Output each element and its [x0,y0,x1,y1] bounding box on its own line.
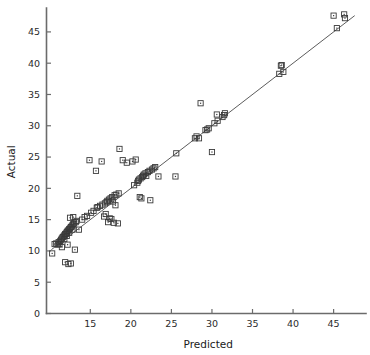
x-tick-label: 45 [328,318,340,329]
marker-center-dot [118,193,119,194]
data-point-marker [148,198,153,203]
marker-center-dot [279,73,280,74]
marker-center-dot [101,161,102,162]
y-tick-label: 30 [28,120,40,131]
x-axis-title: Predicted [184,338,233,350]
marker-center-dot [333,15,334,16]
data-point-marker [173,174,178,179]
marker-center-dot [89,160,90,161]
y-tick-label: 20 [28,183,40,194]
marker-center-dot [117,223,118,224]
marker-center-dot [198,138,199,139]
marker-center-dot [141,198,142,199]
marker-center-dot [52,253,53,254]
marker-center-dot [153,168,154,169]
data-point-marker [93,168,98,173]
y-tick-label: 35 [28,89,40,100]
data-point-marker [65,242,70,247]
plot-canvas: 05101520253035404515202530354045 Predict… [0,0,370,355]
marker-center-dot [158,176,159,177]
x-tick-label: 15 [84,318,96,329]
data-point-marker [214,112,219,117]
marker-center-dot [216,114,217,115]
x-tick-label: 40 [287,318,299,329]
data-point-marker [72,247,77,252]
marker-center-dot [105,213,106,214]
data-point-marker [156,174,161,179]
marker-center-dot [150,200,151,201]
marker-center-dot [283,71,284,72]
marker-center-dot [224,113,225,114]
marker-center-dot [72,229,73,230]
data-point-marker [117,146,122,151]
data-points-layer [50,12,348,267]
marker-center-dot [75,222,76,223]
data-point-marker [75,193,80,198]
y-tick-label: 5 [34,277,40,288]
marker-center-dot [147,171,148,172]
data-point-marker [106,220,111,225]
data-point-marker [63,260,68,265]
marker-center-dot [135,159,136,160]
y-tick-label: 40 [28,58,40,69]
marker-center-dot [74,249,75,250]
marker-center-dot [67,244,68,245]
marker-center-dot [200,103,201,104]
axes-layer: 05101520253035404515202530354045 [28,8,366,329]
y-tick-label: 25 [28,151,40,162]
marker-center-dot [86,215,87,216]
data-point-marker [99,159,104,164]
marker-center-dot [77,195,78,196]
marker-center-dot [176,153,177,154]
data-point-marker [50,251,55,256]
marker-center-dot [155,166,156,167]
marker-center-dot [344,18,345,19]
marker-center-dot [112,201,113,202]
data-point-marker [133,157,138,162]
marker-center-dot [73,217,74,218]
data-point-marker [331,13,336,18]
data-point-marker [209,149,214,154]
x-tick-label: 30 [206,318,218,329]
marker-center-dot [122,160,123,161]
data-point-marker [198,101,203,106]
y-axis-title: Actual [5,145,17,178]
marker-center-dot [113,222,114,223]
x-tick-label: 25 [165,318,177,329]
y-tick-label: 45 [28,26,40,37]
marker-center-dot [281,64,282,65]
marker-center-dot [70,263,71,264]
marker-center-dot [115,205,116,206]
marker-center-dot [114,195,115,196]
marker-center-dot [208,128,209,129]
marker-center-dot [95,170,96,171]
x-tick-label: 35 [246,318,258,329]
y-tick-label: 10 [28,245,40,256]
marker-center-dot [119,148,120,149]
marker-center-dot [217,120,218,121]
marker-center-dot [78,229,79,230]
marker-center-dot [61,247,62,248]
x-tick-label: 20 [125,318,137,329]
marker-center-dot [344,14,345,15]
y-tick-label: 15 [28,214,40,225]
marker-center-dot [109,218,110,219]
data-point-marker [130,159,135,164]
scatter-plot-figure: 05101520253035404515202530354045 Predict… [0,0,370,355]
data-point-marker [87,158,92,163]
marker-center-dot [76,220,77,221]
marker-center-dot [146,175,147,176]
marker-center-dot [175,176,176,177]
marker-center-dot [206,129,207,130]
marker-center-dot [336,28,337,29]
marker-center-dot [126,162,127,163]
marker-center-dot [211,151,212,152]
marker-center-dot [111,218,112,219]
y-tick-label: 0 [34,308,40,319]
marker-center-dot [139,197,140,198]
